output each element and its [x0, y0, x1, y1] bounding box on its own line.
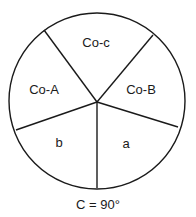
spoke-right — [97, 102, 178, 127]
segment-label-co-a: Co-A — [29, 82, 59, 97]
napier-circle-diagram: Co-c Co-A Co-B b a C = 90° — [0, 0, 196, 217]
spoke-left — [16, 102, 97, 130]
segment-label-b: b — [55, 135, 62, 150]
spokes — [16, 30, 178, 188]
segment-label-a: a — [122, 136, 130, 151]
segment-label-co-c: Co-c — [82, 35, 110, 50]
caption-right-angle: C = 90° — [76, 197, 120, 212]
segment-label-co-b: Co-B — [126, 82, 156, 97]
